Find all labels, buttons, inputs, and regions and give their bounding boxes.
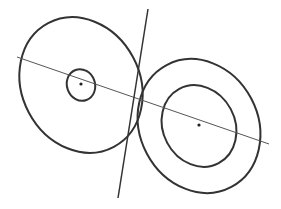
geometry-diagram [0, 0, 281, 209]
right-center-point [197, 123, 200, 126]
left-center-point [79, 82, 82, 85]
background [0, 0, 281, 209]
